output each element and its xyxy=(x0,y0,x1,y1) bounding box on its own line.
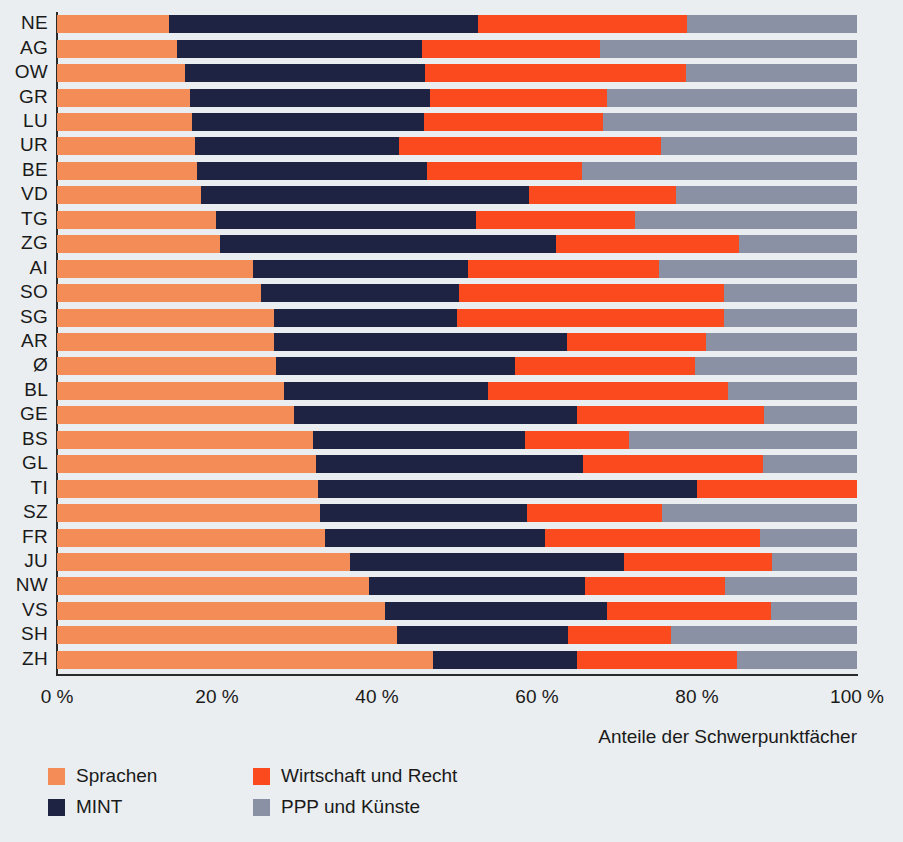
bar-segment-wirtschaft-und-recht xyxy=(529,186,676,204)
bar-row xyxy=(57,260,857,278)
bar-segment-mint xyxy=(253,260,468,278)
bar-segment-wirtschaft-und-recht xyxy=(427,162,581,180)
category-label-ow: OW xyxy=(0,63,48,81)
bar-segment-mint xyxy=(190,89,430,107)
bar-segment-sprachen xyxy=(57,431,313,449)
bar-segment-wirtschaft-und-recht xyxy=(488,382,728,400)
category-label-sg: SG xyxy=(0,308,48,326)
bar-segment-wirtschaft-und-recht xyxy=(457,309,724,327)
legend-label: Sprachen xyxy=(76,765,157,787)
chart-legend: SprachenWirtschaft und RechtMINTPPP und … xyxy=(48,765,668,827)
bar-row xyxy=(57,553,857,571)
bar-segment-sprachen xyxy=(57,64,185,82)
x-axis-tick-labels: 0 %20 %40 %60 %80 %100 % xyxy=(0,686,903,716)
legend-swatch-icon xyxy=(48,768,65,785)
category-label-ti: TI xyxy=(0,479,48,497)
bar-segment-sprachen xyxy=(57,602,385,620)
bar-segment-ppp-und-kuenste xyxy=(629,431,857,449)
legend-item[interactable]: PPP und Künste xyxy=(253,796,420,818)
bar-segment-mint xyxy=(169,15,478,33)
bar-segment-mint xyxy=(177,40,422,58)
bar-segment-wirtschaft-und-recht xyxy=(425,64,686,82)
bar-row xyxy=(57,504,857,522)
bar-segment-mint xyxy=(313,431,525,449)
bar-segment-sprachen xyxy=(57,113,192,131)
plot-area xyxy=(57,12,857,672)
bar-row xyxy=(57,186,857,204)
category-label-sz: SZ xyxy=(0,503,48,521)
x-tick-label-100: 100 % xyxy=(830,686,884,708)
bar-segment-ppp-und-kuenste xyxy=(763,455,857,473)
bar-segment-wirtschaft-und-recht xyxy=(568,626,671,644)
stacked-bar-chart: NEAGOWGRLUURBEVDTGZGAISOSGARØBLGEBSGLTIS… xyxy=(0,0,903,842)
bar-segment-mint xyxy=(261,284,459,302)
bar-segment-sprachen xyxy=(57,651,433,669)
bar-segment-ppp-und-kuenste xyxy=(582,162,857,180)
bar-segment-mint xyxy=(433,651,577,669)
bar-segment-ppp-und-kuenste xyxy=(760,529,857,547)
category-label-gl: GL xyxy=(0,454,48,472)
legend-item[interactable]: Sprachen xyxy=(48,765,157,787)
bar-segment-mint xyxy=(294,406,577,424)
bar-segment-mint xyxy=(274,333,567,351)
bar-segment-sprachen xyxy=(57,235,220,253)
bar-segment-sprachen xyxy=(57,40,177,58)
bar-segment-sprachen xyxy=(57,382,284,400)
bar-segment-mint xyxy=(397,626,568,644)
bar-row xyxy=(57,211,857,229)
bar-segment-ppp-und-kuenste xyxy=(737,651,857,669)
bar-segment-ppp-und-kuenste xyxy=(724,309,857,327)
bar-segment-wirtschaft-und-recht xyxy=(424,113,603,131)
category-label-fr: FR xyxy=(0,528,48,546)
bar-segment-ppp-und-kuenste xyxy=(662,504,857,522)
bar-segment-wirtschaft-und-recht xyxy=(468,260,659,278)
bar-segment-wirtschaft-und-recht xyxy=(478,15,687,33)
bar-segment-mint xyxy=(197,162,427,180)
bar-row xyxy=(57,64,857,82)
bar-segment-mint xyxy=(276,357,514,375)
bar-row xyxy=(57,89,857,107)
bar-row xyxy=(57,162,857,180)
bar-segment-ppp-und-kuenste xyxy=(771,602,857,620)
category-label-lu: LU xyxy=(0,112,48,130)
bar-segment-mint xyxy=(284,382,488,400)
bar-segment-ppp-und-kuenste xyxy=(671,626,857,644)
category-label-zg: ZG xyxy=(0,234,48,252)
legend-item[interactable]: Wirtschaft und Recht xyxy=(253,765,457,787)
bar-row xyxy=(57,309,857,327)
category-label-bl: BL xyxy=(0,381,48,399)
bar-row xyxy=(57,382,857,400)
bar-segment-mint xyxy=(274,309,457,327)
bar-segment-wirtschaft-und-recht xyxy=(607,602,770,620)
bar-row xyxy=(57,284,857,302)
x-tick-label-60: 60 % xyxy=(515,686,558,708)
x-tick-label-40: 40 % xyxy=(355,686,398,708)
bar-segment-ppp-und-kuenste xyxy=(764,406,857,424)
bar-segment-sprachen xyxy=(57,504,320,522)
bar-segment-mint xyxy=(185,64,425,82)
legend-item[interactable]: MINT xyxy=(48,796,122,818)
bar-row xyxy=(57,480,857,498)
bar-segment-ppp-und-kuenste xyxy=(659,260,857,278)
bar-segment-ppp-und-kuenste xyxy=(607,89,857,107)
legend-swatch-icon xyxy=(253,768,270,785)
bar-segment-mint xyxy=(201,186,529,204)
bar-segment-sprachen xyxy=(57,211,216,229)
bar-row xyxy=(57,626,857,644)
bar-segment-wirtschaft-und-recht xyxy=(624,553,772,571)
category-label-: Ø xyxy=(0,356,48,374)
category-label-so: SO xyxy=(0,283,48,301)
bar-row xyxy=(57,137,857,155)
bar-segment-sprachen xyxy=(57,89,190,107)
bar-segment-sprachen xyxy=(57,553,350,571)
bar-segment-ppp-und-kuenste xyxy=(661,137,857,155)
x-tick-label-0: 0 % xyxy=(41,686,74,708)
category-label-ne: NE xyxy=(0,14,48,32)
bar-row xyxy=(57,113,857,131)
bar-segment-wirtschaft-und-recht xyxy=(422,40,600,58)
bar-row xyxy=(57,529,857,547)
category-label-zh: ZH xyxy=(0,650,48,668)
category-label-ai: AI xyxy=(0,259,48,277)
bar-segment-sprachen xyxy=(57,455,316,473)
category-label-nw: NW xyxy=(0,576,48,594)
